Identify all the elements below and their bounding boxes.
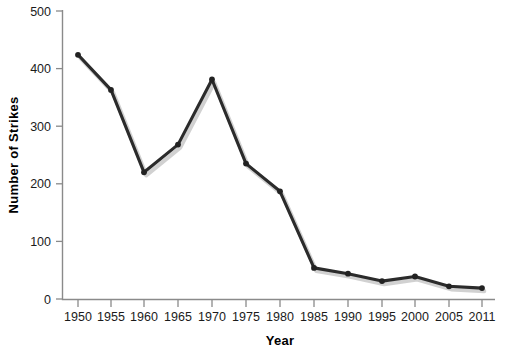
data-point [311, 265, 317, 271]
x-tick-label: 1960 [130, 310, 158, 324]
x-tick-label: 1950 [64, 310, 92, 324]
y-axis-title: Number of Strikes [6, 96, 21, 213]
data-point [175, 142, 181, 148]
x-tick-label: 2011 [469, 310, 496, 324]
x-tick-label: 1975 [232, 310, 260, 324]
data-point [243, 161, 249, 167]
x-tick-label: 2000 [401, 310, 429, 324]
y-tick-label: 500 [30, 5, 51, 19]
y-tick-label: 400 [30, 62, 51, 76]
data-point [75, 52, 81, 58]
y-tick-label: 300 [30, 120, 51, 134]
x-axis-title: Year [266, 333, 295, 348]
strikes-line-chart: 500 400 300 200 100 0 1950 1955 1960 [0, 0, 507, 354]
data-point [412, 274, 418, 280]
x-tick-label: 1985 [300, 310, 328, 324]
data-point [277, 188, 283, 194]
x-tick-label: 1980 [266, 310, 294, 324]
x-tick-label: 1965 [164, 310, 192, 324]
data-point [345, 271, 351, 277]
x-tick-label: 1970 [198, 310, 226, 324]
y-tick-label: 100 [30, 235, 51, 249]
data-point [446, 283, 452, 289]
y-tick-label: 0 [44, 293, 51, 307]
y-tick-label: 200 [30, 177, 51, 191]
x-tick-label: 1955 [97, 310, 125, 324]
data-point [379, 278, 385, 284]
data-point [108, 87, 114, 93]
data-point [479, 285, 485, 291]
data-point [141, 169, 147, 175]
x-tick-label: 1990 [334, 310, 362, 324]
data-point [209, 77, 215, 83]
x-tick-label: 2005 [435, 310, 463, 324]
chart-plot-area: 500 400 300 200 100 0 1950 1955 1960 [0, 0, 507, 354]
x-tick-label: 1995 [368, 310, 396, 324]
